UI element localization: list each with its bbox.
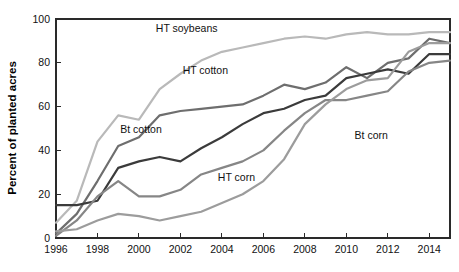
x-tick-label: 2002	[169, 243, 193, 255]
line-chart: 0204060801001996199820002002200420062008…	[0, 0, 459, 272]
series-line-ht-cotton	[56, 39, 450, 234]
x-tick-label: 1998	[86, 243, 110, 255]
series-label-bt-cotton: Bt cotton	[120, 123, 162, 135]
series-line-bt-corn	[56, 61, 450, 236]
series-group	[56, 32, 450, 236]
x-tick-label: 2008	[293, 243, 317, 255]
y-axis-title: Percent of planted acres	[6, 61, 18, 195]
y-tick-label: 40	[38, 144, 50, 156]
series-label-ht-cotton: HT cotton	[183, 64, 228, 76]
x-tick-label: 2000	[127, 243, 151, 255]
y-tick-label: 0	[44, 232, 50, 244]
x-tick-label: 1996	[44, 243, 68, 255]
x-tick-label: 2012	[376, 243, 400, 255]
x-tick-label: 2010	[335, 243, 359, 255]
x-tick-label: 2006	[252, 243, 276, 255]
y-tick-label: 20	[38, 188, 50, 200]
series-line-ht-soybeans	[56, 32, 450, 223]
series-label-group: HT soybeansHT cottonBt cottonBt cornHT c…	[120, 22, 388, 183]
x-tick-label: 2004	[210, 243, 234, 255]
series-line-ht-corn	[56, 43, 450, 231]
y-tick-label: 100	[32, 13, 50, 25]
series-label-bt-corn: Bt corn	[355, 129, 388, 141]
plot-frame	[56, 19, 450, 238]
series-label-ht-soybeans: HT soybeans	[156, 22, 218, 34]
chart-container: 0204060801001996199820002002200420062008…	[0, 0, 459, 272]
y-tick-label: 80	[38, 56, 50, 68]
x-tick-label: 2014	[418, 243, 442, 255]
y-tick-label: 60	[38, 100, 50, 112]
series-label-ht-corn: HT corn	[218, 171, 255, 183]
